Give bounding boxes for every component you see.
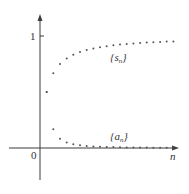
data-point xyxy=(52,128,54,130)
data-point xyxy=(152,41,154,43)
data-point xyxy=(112,146,114,148)
data-point xyxy=(66,57,68,59)
data-point xyxy=(126,43,128,45)
data-point xyxy=(166,147,168,149)
y-axis-arrow-icon xyxy=(38,14,43,21)
data-point xyxy=(52,72,54,74)
data-point xyxy=(59,138,61,140)
data-point xyxy=(86,49,88,51)
data-point xyxy=(86,145,88,147)
data-point xyxy=(92,145,94,147)
origin-label: 0 xyxy=(31,149,37,161)
data-point xyxy=(66,141,68,143)
sequence-convergence-chart: 1 0 n {sn} {an} xyxy=(0,0,189,194)
data-point xyxy=(72,54,74,56)
data-point xyxy=(92,47,94,49)
data-point xyxy=(99,46,101,48)
data-point xyxy=(72,143,74,145)
data-point xyxy=(79,51,81,53)
data-point xyxy=(99,146,101,148)
series-a-n-label-close: } xyxy=(123,130,128,142)
data-point xyxy=(106,45,108,47)
series-a-n-label-text: {a xyxy=(110,130,120,142)
data-point xyxy=(172,147,174,149)
data-point xyxy=(126,146,128,148)
series-a-n-label: {an} xyxy=(110,130,128,144)
series-s-n-label-close: } xyxy=(122,51,127,63)
data-point xyxy=(59,63,61,65)
data-point xyxy=(166,41,168,43)
data-point xyxy=(146,147,148,149)
data-point xyxy=(132,43,134,45)
series-s-n-label-text: {s xyxy=(110,51,119,63)
data-point xyxy=(119,44,121,46)
data-point xyxy=(119,146,121,148)
data-point xyxy=(146,42,148,44)
data-point xyxy=(159,41,161,43)
data-point xyxy=(46,91,48,93)
data-point xyxy=(79,144,81,146)
series-s-n-label: {sn} xyxy=(110,51,127,65)
data-point xyxy=(139,42,141,44)
data-point xyxy=(139,147,141,149)
data-point xyxy=(106,146,108,148)
data-point xyxy=(159,147,161,149)
series-s-n-points xyxy=(46,40,175,93)
x-axis-label: n xyxy=(170,150,176,162)
data-point xyxy=(172,40,174,42)
data-point xyxy=(152,147,154,149)
data-point xyxy=(132,146,134,148)
y-tick-label-1: 1 xyxy=(30,30,36,42)
data-point xyxy=(112,44,114,46)
